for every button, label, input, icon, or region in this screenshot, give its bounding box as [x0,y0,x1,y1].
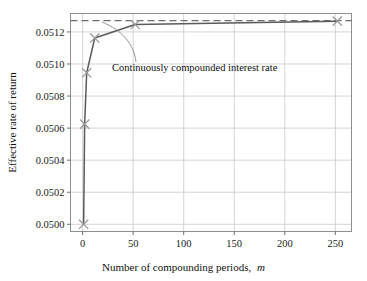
x-tick-label: 150 [226,238,242,249]
chart-figure: Continuously compounded interest rate 0.… [0,0,367,281]
y-tick-label: 0.0512 [36,27,65,38]
annotation-continuous-rate: Continuously compounded interest rate [112,62,278,73]
effective-rate-line-chart: Continuously compounded interest rate 0.… [0,0,367,281]
y-tick-label: 0.0510 [36,59,65,70]
x-axis-title: Number of compounding periods, m [102,261,265,273]
y-tick-label: 0.0500 [36,219,65,230]
x-tick-label: 250 [327,238,343,249]
y-axis-title: Effective rate of return [6,72,18,173]
y-tick-label: 0.0504 [36,155,66,166]
y-tick-label: 0.0502 [36,187,65,198]
x-tick-label: 200 [277,238,293,249]
y-tick-label: 0.0506 [36,123,65,134]
x-tick-label: 100 [176,238,192,249]
x-tick-label: 50 [128,238,139,249]
x-tick-label: 0 [80,238,85,249]
y-tick-label: 0.0508 [36,91,65,102]
